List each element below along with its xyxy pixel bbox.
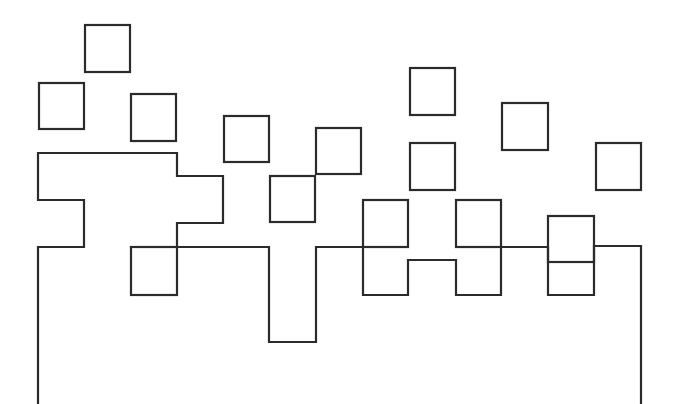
main-crenellated-outline (131, 246, 641, 404)
diagram-canvas (0, 0, 680, 404)
free-squares (39, 25, 641, 295)
square-sq-14 (548, 216, 594, 262)
square-sq-4 (224, 116, 269, 162)
square-sq-13 (456, 200, 501, 247)
square-sq-2 (39, 83, 84, 129)
squares-line-drawing (0, 0, 680, 404)
square-sq-7 (502, 103, 548, 150)
square-sq-6 (410, 68, 455, 115)
square-sq-8 (410, 143, 455, 190)
square-sq-10 (270, 176, 315, 222)
square-sq-3 (131, 94, 176, 141)
square-sq-11 (131, 247, 177, 295)
square-sq-12 (363, 200, 408, 247)
square-sq-1 (85, 25, 130, 72)
square-sq-5 (316, 128, 361, 174)
square-sq-9 (596, 143, 641, 190)
stepped-outlines (38, 153, 641, 404)
